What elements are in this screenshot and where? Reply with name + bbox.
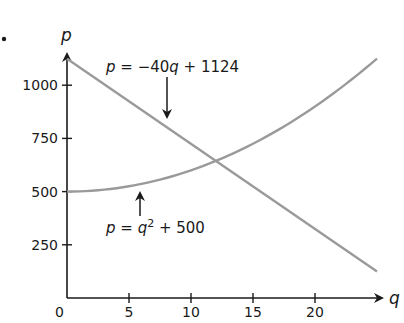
y-tick-label: 250 [31, 237, 58, 253]
x-tick-label: 10 [182, 304, 200, 320]
demand-line [67, 59, 377, 272]
q-axis-label: q [389, 288, 400, 308]
line-equation-label: p = −40q + 1124 [105, 58, 239, 76]
problem-marker [2, 37, 6, 41]
p-axis-label: p [60, 25, 72, 45]
parabola-equation-label: p = q2 + 500 [105, 217, 205, 237]
supply-curve [67, 59, 377, 192]
x-tick-label: 20 [306, 304, 324, 320]
x-tick-label: 15 [244, 304, 262, 320]
y-tick-label: 500 [31, 184, 58, 200]
chart: 5101520 2505007501000 q p 0 p = −40q + 1… [0, 0, 404, 323]
x-ticks: 5101520 [125, 293, 324, 320]
x-tick-label: 5 [125, 304, 134, 320]
origin-label: 0 [55, 304, 64, 320]
y-tick-label: 750 [31, 130, 58, 146]
y-tick-label: 1000 [22, 77, 58, 93]
y-ticks: 2505007501000 [22, 77, 72, 253]
